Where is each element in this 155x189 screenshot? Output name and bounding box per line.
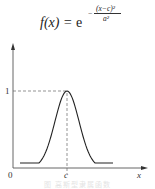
y-axis-arrow-icon — [11, 43, 15, 50]
figure-caption: 图 高斯型隶属函数 — [0, 179, 155, 189]
gaussian-plot: 1 0 c x — [0, 0, 155, 189]
gaussian-curve — [20, 91, 113, 163]
x-axis-arrow-icon — [141, 166, 148, 170]
y-tick-label: 1 — [5, 86, 10, 96]
